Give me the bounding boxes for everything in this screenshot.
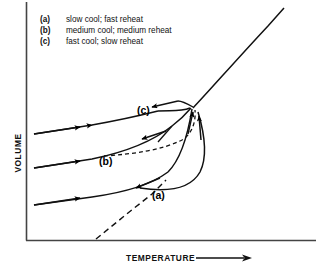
legend-desc-c: fast cool; slow reheat (66, 36, 143, 47)
glass-curve-c-arrow (34, 127, 80, 134)
curve-c-upper-return (178, 101, 193, 107)
curve-a-direction-arrow (136, 178, 160, 188)
volume-temperature-diagram: (a) slow cool; fast reheat (b) medium co… (0, 0, 324, 275)
liquid-equilibrium-line (193, 8, 284, 108)
legend-key-a: (a) (40, 14, 66, 25)
legend-item-a: (a) slow cool; fast reheat (40, 14, 172, 25)
y-axis-title: VOLUME (13, 123, 23, 183)
legend: (a) slow cool; fast reheat (b) medium co… (40, 14, 172, 48)
legend-item-b: (b) medium cool; medium reheat (40, 25, 172, 36)
curve-c-direction-arrow (152, 101, 178, 107)
glass-curve-c-tail (158, 108, 190, 111)
curve-label-c: (c) (137, 104, 150, 116)
curve-label-a: (a) (152, 189, 165, 201)
legend-key-c: (c) (40, 36, 66, 47)
legend-key-b: (b) (40, 25, 66, 36)
x-axis-title: TEMPERATURE (126, 253, 195, 263)
legend-desc-a: slow cool; fast reheat (66, 14, 143, 25)
legend-desc-b: medium cool; medium reheat (66, 25, 172, 36)
curve-label-b: (b) (99, 155, 112, 167)
glass-curve-b-arrow (34, 161, 80, 168)
x-axis-arrow-icon (196, 252, 254, 264)
legend-item-c: (c) fast cool; slow reheat (40, 36, 172, 47)
glass-curve-a-arrow (34, 198, 80, 205)
